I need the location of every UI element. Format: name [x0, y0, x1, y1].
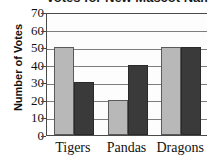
y-axis-tick-label: 20	[14, 94, 44, 107]
bar	[74, 82, 94, 135]
y-axis-tick-label: 70	[14, 6, 44, 19]
y-axis-tick-label: 60	[14, 24, 44, 37]
x-axis-tick-label: Dragons	[153, 140, 207, 155]
x-axis-tick-label: Tigers	[46, 140, 100, 155]
bar-chart: Votes for New Mascot Name Number of Vote…	[0, 0, 208, 163]
y-axis-tick-label: 50	[14, 41, 44, 54]
plot-area	[46, 13, 207, 136]
bar	[161, 47, 181, 135]
bar	[181, 47, 201, 135]
y-axis-tick-label: 30	[14, 76, 44, 89]
bar	[108, 100, 128, 135]
gridline	[47, 31, 207, 32]
bar	[54, 47, 74, 135]
y-axis-tick-mark	[41, 136, 46, 137]
y-axis-tick-label: 10	[14, 111, 44, 124]
y-axis-tick-label: 40	[14, 59, 44, 72]
bar	[128, 65, 148, 135]
chart-title: Votes for New Mascot Name	[46, 0, 208, 4]
y-axis-tick-label: 0	[14, 129, 44, 142]
x-axis-tick-label: Pandas	[100, 140, 154, 155]
